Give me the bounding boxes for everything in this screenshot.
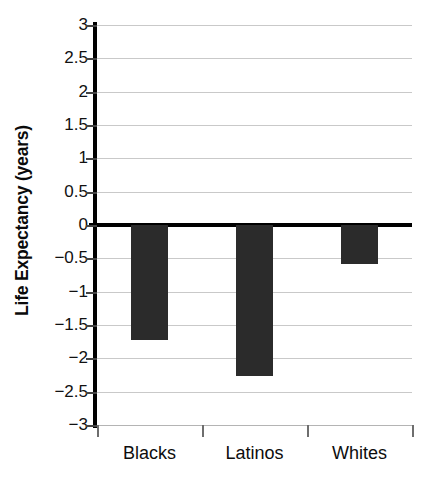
x-axis-category-label: Whites (332, 443, 387, 464)
y-axis-tick-label: 0 (44, 215, 88, 235)
bar-chart: Life Expectancy (years) 32.521.510.50−0.… (0, 0, 428, 482)
y-axis-tick-mark (86, 25, 97, 27)
y-axis-tick-mark (86, 92, 97, 94)
gridline (97, 192, 412, 193)
x-axis-line (97, 425, 412, 426)
y-axis-tick-label: −0.5 (44, 248, 88, 268)
y-axis-tick-mark (86, 325, 97, 327)
gridline (97, 125, 412, 126)
gridline (97, 92, 412, 93)
y-axis-tick-label: 0.5 (44, 182, 88, 202)
y-axis-title-text: Life Expectancy (years) (12, 125, 33, 316)
y-axis-tick-label: −1.5 (44, 315, 88, 335)
bar (131, 225, 168, 340)
y-axis-tick-label: 2 (44, 82, 88, 102)
x-axis-category-label: Latinos (225, 443, 283, 464)
x-axis-tick-mark (412, 425, 414, 437)
y-axis-tick-label: −2.5 (44, 382, 88, 402)
y-axis-tick-label: −2 (44, 348, 88, 368)
y-axis-tick-mark (86, 58, 97, 60)
gridline (97, 58, 412, 59)
gridline (97, 392, 412, 393)
gridline (97, 158, 412, 159)
x-axis-tick-labels: BlacksLatinosWhites (97, 443, 412, 473)
y-axis-tick-mark (86, 358, 97, 360)
y-axis-tick-mark (86, 392, 97, 394)
x-axis-tick-mark (202, 425, 204, 437)
x-axis-category-label: Blacks (123, 443, 176, 464)
x-axis-tick-mark (307, 425, 309, 437)
y-axis-tick-mark (86, 225, 97, 227)
y-axis-tick-mark (86, 158, 97, 160)
y-axis-tick-label: 3 (44, 15, 88, 35)
plot-area (97, 25, 412, 425)
y-axis-tick-label: −3 (44, 415, 88, 435)
bar (236, 225, 273, 376)
y-axis-tick-label: −1 (44, 282, 88, 302)
y-axis-tick-label: 2.5 (44, 48, 88, 68)
gridline (97, 25, 412, 26)
y-axis-tick-mark (86, 192, 97, 194)
y-axis-tick-mark (86, 258, 97, 260)
y-axis-tick-mark (86, 125, 97, 127)
y-axis-tick-mark (86, 292, 97, 294)
bar (341, 225, 378, 264)
y-axis-tick-label: 1.5 (44, 115, 88, 135)
y-axis-tick-labels: 32.521.510.50−0.5−1−1.5−2−2.5−3 (44, 0, 88, 482)
x-axis-tick-mark (97, 425, 99, 437)
y-axis-title: Life Expectancy (years) (0, 0, 44, 440)
y-axis-tick-mark (86, 425, 97, 427)
y-axis-tick-label: 1 (44, 148, 88, 168)
